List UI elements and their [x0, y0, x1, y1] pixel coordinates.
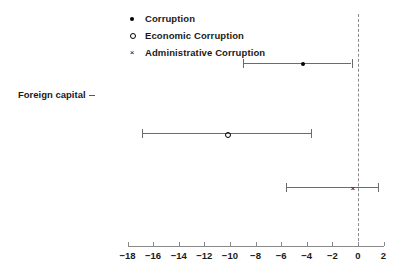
cross-marker: × — [349, 185, 356, 192]
series-row — [0, 58, 419, 70]
x-axis-tick-label: −6 — [269, 250, 293, 261]
open-circle-marker — [225, 132, 231, 138]
x-axis-tick — [204, 242, 205, 246]
ci-cap-high — [311, 129, 312, 138]
x-axis-tick — [332, 242, 333, 246]
x-axis-line — [128, 246, 384, 247]
x-axis-tick — [230, 242, 231, 246]
x-axis-tick-label: −18 — [116, 250, 140, 261]
x-axis-tick-label: 2 — [372, 250, 396, 261]
series-row — [0, 128, 419, 140]
coefficient-plot: Corruption Economic Corruption × Adminis… — [0, 0, 419, 273]
filled-circle-marker — [301, 62, 305, 66]
x-axis-tick-label: −14 — [167, 250, 191, 261]
ci-cap-low — [243, 59, 244, 68]
x-axis-tick — [179, 242, 180, 246]
x-axis-tick — [153, 242, 154, 246]
ci-cap-high — [352, 59, 353, 68]
plot-area: ×−18−16−14−12−10−8−6−4−202 — [0, 0, 419, 273]
x-axis-tick — [128, 242, 129, 246]
ci-cap-low — [142, 129, 143, 138]
x-axis-tick-label: −8 — [244, 250, 268, 261]
x-axis-tick — [307, 242, 308, 246]
series-row: × — [0, 182, 419, 194]
confidence-interval-line — [286, 187, 378, 188]
x-axis-tick — [384, 242, 385, 246]
x-axis-tick-label: −12 — [192, 250, 216, 261]
x-axis-tick-label: −4 — [295, 250, 319, 261]
x-axis-tick — [281, 242, 282, 246]
confidence-interval-line — [243, 63, 352, 64]
x-axis-tick-label: −10 — [218, 250, 242, 261]
x-axis-tick-label: −16 — [141, 250, 165, 261]
x-axis-tick-label: −2 — [320, 250, 344, 261]
x-axis-tick — [358, 242, 359, 246]
ci-cap-high — [378, 183, 379, 192]
x-axis-tick-label: 0 — [346, 250, 370, 261]
x-axis-tick — [256, 242, 257, 246]
ci-cap-low — [286, 183, 287, 192]
